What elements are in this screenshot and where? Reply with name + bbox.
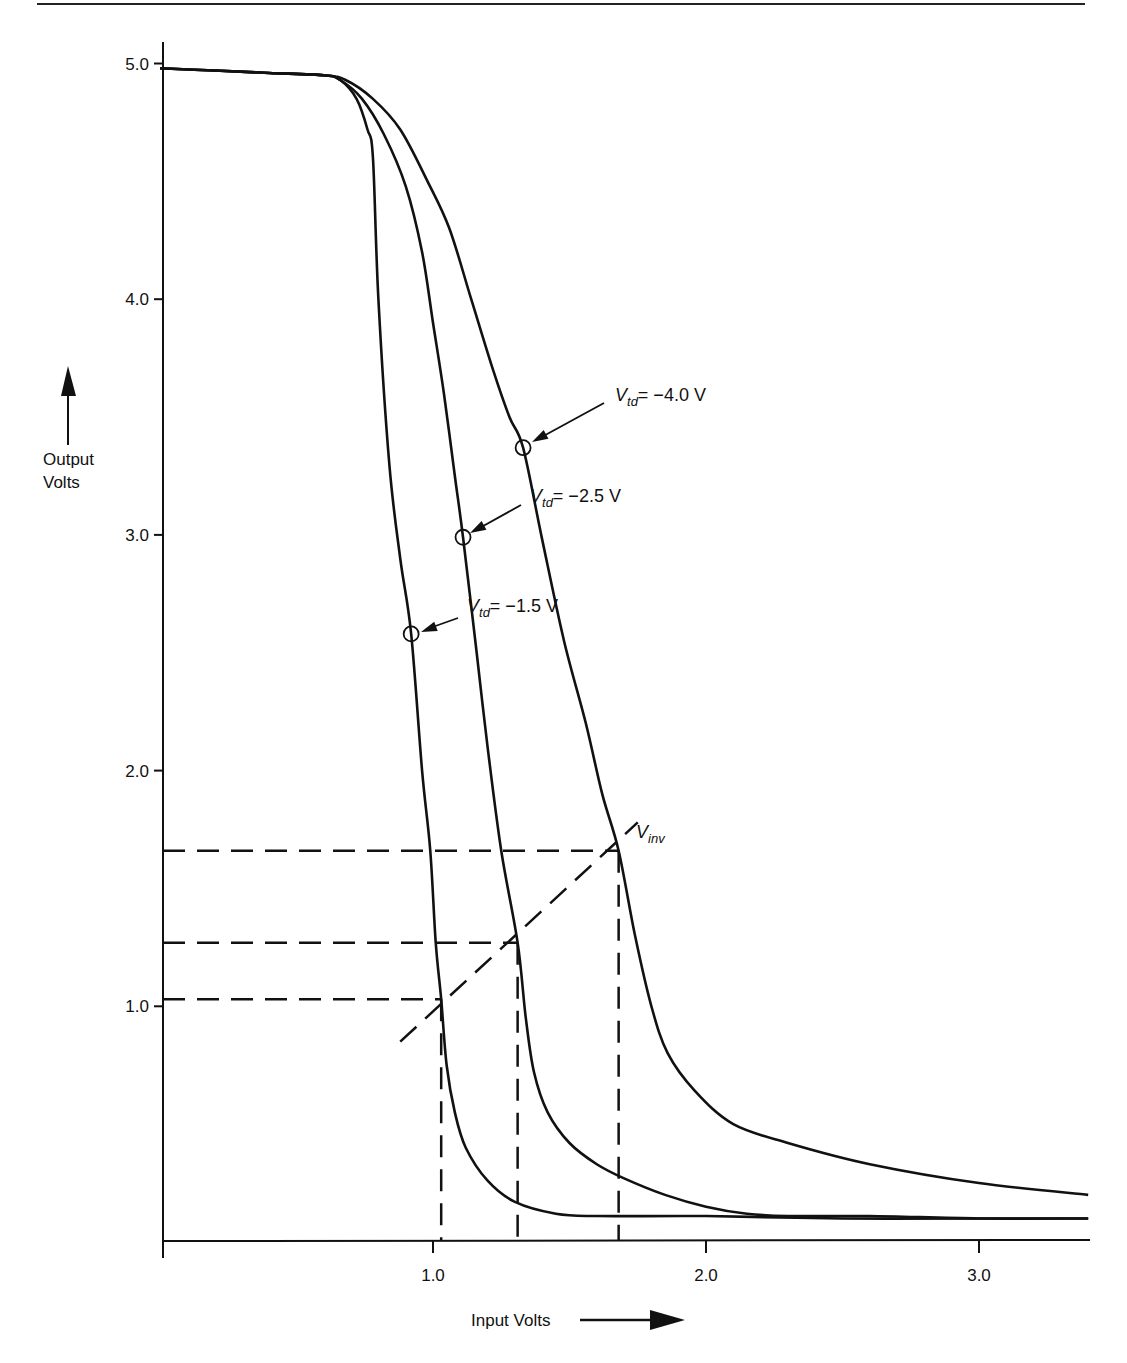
y-tick-label: 5.0 — [125, 55, 149, 74]
x-axis-title: Input Volts — [471, 1311, 550, 1330]
y-tick-label: 4.0 — [125, 290, 149, 309]
callout-arrow-shaft — [538, 403, 604, 439]
y-axis-title-line1: Output — [43, 450, 94, 469]
y-tick-label: 3.0 — [125, 526, 149, 545]
x-tick-label: 1.0 — [421, 1266, 445, 1285]
callout-arrowhead-icon — [421, 622, 438, 632]
up-arrow-icon — [61, 366, 76, 396]
x-tick-label: 2.0 — [694, 1266, 718, 1285]
series-label: Vtd= −1.5 V — [467, 596, 558, 620]
vinv-label: Vinv — [636, 822, 666, 846]
y-tick-label: 1.0 — [125, 997, 149, 1016]
curves — [160, 68, 1088, 1218]
transfer-curve — [160, 68, 1088, 1195]
series-label: Vtd= −4.0 V — [615, 385, 706, 409]
callout-arrowhead-icon — [470, 521, 486, 533]
x-axis-line — [163, 1240, 1090, 1241]
vinv-guides — [163, 822, 638, 1241]
transfer-curve — [160, 68, 1088, 1218]
right-arrow-icon — [650, 1310, 685, 1330]
transfer-curve — [160, 68, 1088, 1218]
x-tick-label: 3.0 — [967, 1266, 991, 1285]
y-axis-title-line2: Volts — [43, 473, 80, 492]
chart: 1.02.03.04.05.01.02.03.0 Vtd= −1.5 VVtd=… — [0, 0, 1127, 1363]
axes: 1.02.03.04.05.01.02.03.0 — [125, 42, 1090, 1285]
annotations: Vtd= −1.5 VVtd= −2.5 VVtd= −4.0 VVinv — [404, 385, 706, 846]
y-axis-title-group: Output Volts — [43, 366, 94, 492]
x-axis-title-group: Input Volts — [471, 1310, 685, 1330]
callout-arrowhead-icon — [532, 430, 548, 442]
y-tick-label: 2.0 — [125, 762, 149, 781]
series-label: Vtd= −2.5 V — [530, 486, 621, 510]
